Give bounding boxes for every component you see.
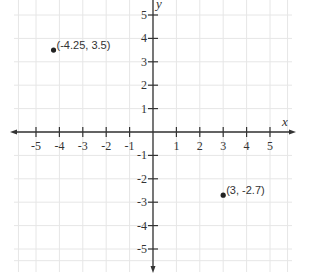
y-tick-label: 2 bbox=[141, 78, 147, 92]
y-tick-label: 5 bbox=[141, 8, 147, 22]
axes: x y bbox=[10, 0, 296, 273]
x-tick-label: 1 bbox=[173, 139, 179, 153]
x-axis-left-arrow-icon bbox=[10, 130, 17, 135]
x-tick-label: -3 bbox=[78, 139, 88, 153]
y-tick-label: 1 bbox=[141, 102, 147, 116]
y-tick-label: -3 bbox=[137, 195, 147, 209]
data-point bbox=[221, 193, 226, 198]
x-tick-label: -5 bbox=[31, 139, 41, 153]
x-tick-label: 2 bbox=[197, 139, 203, 153]
point-label: (3, -2.7) bbox=[226, 184, 265, 196]
y-tick-label: -1 bbox=[137, 148, 147, 162]
coordinate-plane: x y -5-4-3-2-11234554321-1-2-3-4-5 (-4.2… bbox=[0, 0, 309, 280]
x-tick-label: -2 bbox=[101, 139, 111, 153]
y-tick-label: -2 bbox=[137, 172, 147, 186]
y-axis-down-arrow-icon bbox=[151, 266, 156, 273]
x-tick-label: -4 bbox=[54, 139, 64, 153]
x-tick-label: 5 bbox=[267, 139, 273, 153]
x-tick-label: 3 bbox=[220, 139, 226, 153]
y-tick-label: 4 bbox=[141, 31, 147, 45]
point-label: (-4.25, 3.5) bbox=[57, 39, 111, 51]
x-axis-label: x bbox=[281, 114, 288, 129]
y-tick-label: -4 bbox=[137, 219, 147, 233]
x-axis-right-arrow-icon bbox=[289, 130, 296, 135]
data-point bbox=[51, 48, 56, 53]
y-tick-label: 3 bbox=[141, 55, 147, 69]
x-tick-label: -1 bbox=[125, 139, 135, 153]
x-tick-label: 4 bbox=[244, 139, 250, 153]
y-tick-label: -5 bbox=[137, 242, 147, 256]
y-axis-label: y bbox=[154, 0, 162, 11]
